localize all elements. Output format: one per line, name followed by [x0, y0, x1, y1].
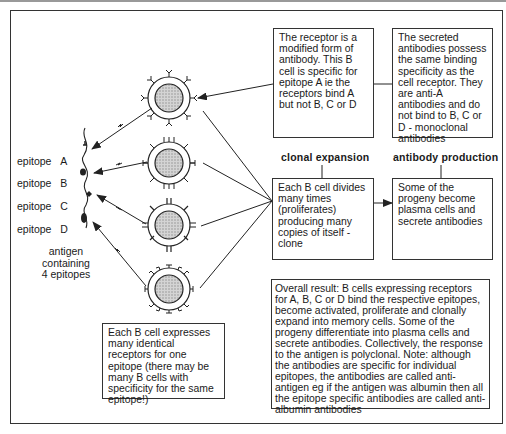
- antigen-caption: antigen containing 4 epitopes: [38, 246, 94, 281]
- clonal-expansion-heading: clonal expansion: [281, 151, 369, 163]
- secreted-antibodies-box: The secreted antibodies possess the same…: [392, 28, 493, 138]
- receptor-explanation-box: The receptor is a modified form of antib…: [273, 28, 374, 138]
- epitope-word: epitope: [17, 177, 51, 189]
- epitope-label-a: epitope A: [17, 155, 67, 167]
- receptor-explanation-text: The receptor is a modified form of antib…: [279, 32, 358, 110]
- epitope-label-c: epitope C: [17, 200, 68, 212]
- antibody-production-box: Some of the progeny become plasma cells …: [392, 178, 493, 260]
- epitope-letter: A: [60, 155, 67, 167]
- antigen-caption-line: antigen: [38, 246, 94, 258]
- antibody-production-text: Some of the progeny become plasma cells …: [398, 182, 482, 227]
- b-cell-d: [145, 265, 193, 313]
- b-cell-b: [143, 137, 195, 189]
- epitope-label-b: epitope B: [17, 177, 67, 189]
- b-cell-a: [141, 70, 197, 126]
- epitope-word: epitope: [17, 223, 51, 235]
- antigen-strand: [80, 128, 92, 228]
- b-cell-c: [142, 198, 196, 252]
- epitope-label-d: epitope D: [17, 223, 68, 235]
- b-cell-receptor-box: Each B cell expresses many identical rec…: [102, 323, 225, 399]
- epitope-word: epitope: [17, 155, 51, 167]
- epitope-word: epitope: [17, 200, 51, 212]
- clonal-expansion-text: Each B cell divides many times (prolifer…: [278, 182, 365, 249]
- overall-result-box: Overall result: B cells expressing recep…: [271, 279, 490, 409]
- antibody-production-heading: antibody production: [393, 151, 498, 163]
- epitope-letter: B: [60, 177, 67, 189]
- antigen-caption-line: 4 epitopes: [38, 269, 94, 281]
- overall-result-text: Overall result: B cells expressing recep…: [275, 283, 485, 415]
- clonal-expansion-box: Each B cell divides many times (prolifer…: [272, 178, 374, 260]
- secreted-antibodies-text: The secreted antibodies possess the same…: [398, 32, 486, 144]
- epitope-letter: D: [60, 223, 68, 235]
- epitope-letter: C: [60, 200, 68, 212]
- b-cell-receptor-text: Each B cell expresses many identical rec…: [108, 327, 214, 405]
